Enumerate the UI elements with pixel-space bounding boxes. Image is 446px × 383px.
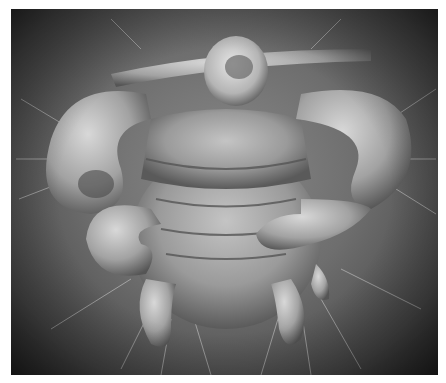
thorax	[141, 109, 311, 189]
right-front-leg	[296, 90, 411, 209]
micrograph-photo	[11, 9, 438, 375]
left-rear-leg	[140, 279, 176, 347]
louse-illustration	[11, 9, 438, 375]
